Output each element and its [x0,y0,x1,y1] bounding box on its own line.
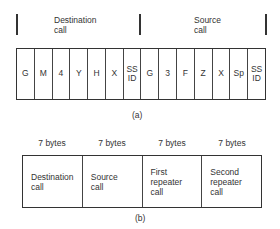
char-cell: Z [195,49,213,99]
char-cell: G [141,49,159,99]
first-repeater-call-field: First repeater call [143,156,203,207]
destination-call-group-label: Destination call [54,15,97,35]
ssid-cell: SS ID [248,49,265,99]
caption-b: (b) [135,213,145,223]
callsign-character-row: G M 4 Y H X SS ID G 3 F Z X Sp SS ID [16,48,266,100]
space-cell: Sp [230,49,248,99]
source-call-group-label: Source call [194,15,221,35]
char-cell: F [177,49,195,99]
char-cell: M [35,49,53,99]
field-size-row: 7 bytes 7 bytes 7 bytes 7 bytes [22,138,262,148]
char-cell: Y [70,49,88,99]
char-cell: X [213,49,231,99]
source-call-field: Source call [83,156,143,207]
char-cell: H [88,49,106,99]
ssid-cell: SS ID [124,49,142,99]
second-repeater-call-field: Second repeater call [202,156,261,207]
destination-call-field: Destination call [23,156,83,207]
char-cell: 3 [159,49,177,99]
group-divider-right [265,14,267,35]
address-field-row: Destination call Source call First repea… [22,155,262,208]
field-size-label: 7 bytes [202,138,262,148]
char-cell: X [106,49,124,99]
field-size-label: 7 bytes [22,138,82,148]
field-size-label: 7 bytes [142,138,202,148]
caption-a: (a) [132,110,142,120]
group-divider-middle [139,14,141,35]
char-cell: G [17,49,35,99]
group-divider-left [16,14,18,35]
char-cell: 4 [53,49,71,99]
field-size-label: 7 bytes [82,138,142,148]
